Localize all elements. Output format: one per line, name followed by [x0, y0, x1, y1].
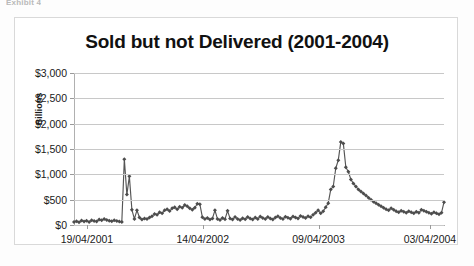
data-point-marker: [213, 208, 217, 212]
data-point-marker: [336, 158, 340, 162]
gridline: [74, 149, 444, 150]
data-point-marker: [125, 193, 129, 197]
data-point-marker: [198, 202, 202, 206]
chart-container: Sold but not Delivered (2001-2004) Billi…: [14, 17, 458, 245]
y-tick-label: $0: [55, 219, 67, 231]
y-tick-label: $500: [44, 194, 67, 206]
gridline: [74, 200, 444, 201]
y-tick-label: $2,000: [35, 118, 67, 130]
x-tick-mark: [430, 225, 431, 229]
y-tick-label: $1,000: [35, 168, 67, 180]
y-tick-mark: [70, 149, 74, 150]
x-tick-label: 14/04/2002: [176, 233, 229, 245]
x-tick-mark: [319, 225, 320, 229]
gridline: [74, 124, 444, 125]
y-tick-mark: [70, 124, 74, 125]
data-point-marker: [442, 200, 446, 204]
x-tick-mark: [203, 225, 204, 229]
gridline: [74, 174, 444, 175]
data-point-marker: [226, 209, 230, 213]
x-tick-label: 09/04/2003: [292, 233, 345, 245]
y-tick-label: $3,000: [35, 67, 67, 79]
x-tick-mark: [87, 225, 88, 229]
gridline: [74, 225, 444, 226]
y-tick-mark: [70, 174, 74, 175]
y-tick-label: $1,500: [35, 143, 67, 155]
data-point-marker: [334, 166, 338, 170]
data-point-marker: [122, 157, 126, 161]
data-point-marker: [132, 217, 136, 221]
screenshot-stage: Exhibit 4 Sold but not Delivered (2001-2…: [0, 0, 474, 266]
y-tick-mark: [70, 73, 74, 74]
chart-title: Sold but not Delivered (2001-2004): [15, 31, 459, 53]
page-crumb: Exhibit 4: [6, 0, 41, 6]
x-tick-label: 19/04/2001: [61, 233, 114, 245]
y-axis-title: Billions: [34, 79, 44, 139]
y-tick-mark: [70, 200, 74, 201]
plot-area: $3,000$2,500$2,000$1,500$1,000$500$019/0…: [74, 73, 444, 225]
data-point-marker: [130, 208, 134, 212]
y-tick-label: $2,500: [35, 92, 67, 104]
gridline: [74, 73, 444, 74]
y-tick-mark: [70, 98, 74, 99]
gridline: [74, 98, 444, 99]
data-point-marker: [135, 208, 139, 212]
x-tick-label: 03/04/2004: [404, 233, 457, 245]
y-tick-mark: [70, 225, 74, 226]
